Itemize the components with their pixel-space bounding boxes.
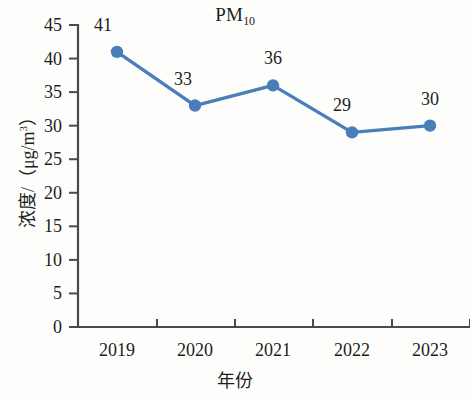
data-point-label: 33 [161, 70, 205, 88]
data-point-marker [346, 126, 358, 138]
data-point-marker [267, 79, 279, 91]
y-axis-ticks [70, 25, 78, 327]
x-axis-tick-label: 2019 [82, 341, 152, 359]
chart-figure: PM10 浓度/（μg/m3） 年份 051015202530354045 20… [0, 0, 470, 398]
y-axis-tick-label: 30 [22, 117, 62, 135]
y-axis-tick-label: 35 [22, 83, 62, 101]
data-point-marker [111, 46, 123, 58]
y-axis-tick-label: 15 [22, 217, 62, 235]
y-axis-tick-label: 0 [22, 318, 62, 336]
data-point-marker [189, 99, 201, 111]
data-point-label: 41 [81, 16, 125, 34]
y-axis-tick-label: 40 [22, 50, 62, 68]
plot-area [0, 0, 470, 398]
x-axis-tick-label: 2021 [238, 341, 308, 359]
x-axis-tick-label: 2023 [395, 341, 465, 359]
y-axis-tick-label: 5 [22, 284, 62, 302]
x-axis-tick-label: 2022 [317, 341, 387, 359]
y-axis-tick-label: 25 [22, 150, 62, 168]
axis-spine [78, 25, 470, 327]
data-point-marker [424, 119, 436, 131]
y-axis-tick-label: 20 [22, 184, 62, 202]
y-axis-tick-label: 10 [22, 251, 62, 269]
y-axis-tick-label: 45 [22, 16, 62, 34]
data-point-label: 29 [320, 96, 364, 114]
data-point-label: 30 [408, 90, 452, 108]
data-point-label: 36 [251, 49, 295, 67]
x-axis-tick-label: 2020 [160, 341, 230, 359]
